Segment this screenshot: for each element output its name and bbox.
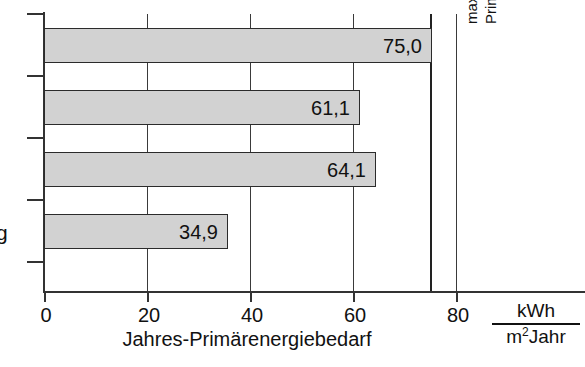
y-axis-tick — [27, 261, 44, 263]
unit-numerator: kWh — [492, 300, 580, 325]
unit-fraction: kWh m2Jahr — [492, 300, 580, 348]
gridline-80 — [456, 14, 457, 291]
clipped-left-label: g — [0, 222, 8, 243]
x-axis-tick — [44, 293, 46, 302]
x-axis-tick — [250, 293, 252, 302]
x-axis-tick — [353, 293, 355, 302]
y-axis-tick — [27, 137, 44, 139]
x-tick-label-40: 40 — [222, 303, 282, 327]
y-axis-tick — [27, 199, 44, 201]
x-tick-label-60: 60 — [325, 303, 385, 327]
bar-value-label: 61,1 — [278, 98, 350, 118]
x-tick-label-20: 20 — [119, 303, 179, 327]
unit-denominator-exponent: 2 — [522, 325, 529, 339]
bar-value-label: 34,9 — [146, 222, 218, 242]
reference-line-annotation-line2: Primärenergiebedarf — [481, 0, 500, 24]
x-axis-title: Jahres-Primärenergiebedarf — [44, 327, 450, 351]
x-tick-label-0: 0 — [16, 303, 76, 327]
unit-denominator-base: m — [506, 326, 522, 347]
x-axis-tick — [456, 293, 458, 302]
unit-denominator: m2Jahr — [492, 325, 580, 348]
y-axis-tick — [27, 75, 44, 77]
unit-denominator-rest: Jahr — [529, 326, 566, 347]
x-tick-label-80: 80 — [428, 303, 488, 327]
reference-line-annotation-line1: maximal zulässiger — [463, 0, 480, 24]
x-axis-tick — [147, 293, 149, 302]
bar-value-label: 75,0 — [350, 36, 422, 56]
y-axis-tick — [27, 13, 44, 15]
bar-chart: g 75,0 61,1 64,1 34,9 0 20 40 60 80 Jahr… — [0, 0, 585, 367]
reference-line-annotation: maximal zulässiger Primärenergiebedarf — [462, 0, 500, 24]
bar-value-label: 64,1 — [294, 160, 366, 180]
x-axis-line — [44, 291, 585, 293]
